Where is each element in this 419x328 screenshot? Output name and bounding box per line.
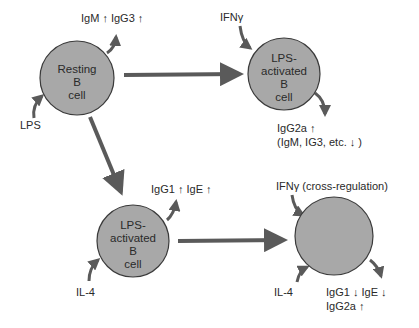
resting-cell-label-line2: B [73,76,81,88]
il4-input-label-bottom-left: IL-4 [76,286,95,298]
diagram-canvas: Resting B cell LPS- activated B cell LPS… [0,0,419,328]
arrow-il4-input-bottom-left [89,260,98,281]
top-cell-label-line2: activated [261,65,307,77]
b-cell-class-switch-diagram: Resting B cell LPS- activated B cell LPS… [0,0,419,328]
cross-regulated-output-line2: IgG2a ↑ [326,300,365,312]
ifng-input-label: IFNγ [220,11,244,23]
arrow-lps-input [34,96,42,118]
resting-b-cell: Resting B cell [40,41,114,115]
bottom-cell-label-line4: cell [124,258,141,270]
arrow-il4-input-bottom-right [297,267,307,282]
cross-regulated-b-cell [295,197,373,275]
cross-regulated-output-line1: IgG1 ↓ IgE ↓ [326,286,387,298]
top-cell-label-line1: LPS- [271,52,297,64]
lps-activated-b-cell-bottom: LPS- activated B cell [97,205,169,277]
arrow-resting-to-bottom-activated [90,117,121,192]
igg1-output-label: IgG1 ↑ IgE ↑ [151,183,212,195]
top-cell-label-line3: B [280,78,288,90]
il4-input-label-bottom-right: IL-4 [274,286,293,298]
bottom-cell-label-line2: activated [110,232,156,244]
resting-output-label: IgM ↑ IgG3 ↑ [81,12,143,24]
bottom-cell-label-line3: B [129,245,137,257]
bottom-cell-label-line1: LPS- [120,219,146,231]
arrow-ifng-cross-regulation-input [292,195,303,215]
arrow-ifng-input-top [240,26,250,48]
igg2a-output-label-line1: IgG2a ↑ [277,122,316,134]
arrow-resting-to-top-activated [124,74,240,75]
resting-cell-label-line3: cell [68,89,85,101]
lps-activated-b-cell-top: LPS- activated B cell [248,38,320,110]
igg2a-output-label-line2: (IgM, IG3, etc. ↓ ) [277,136,362,148]
lps-input-label: LPS [20,119,41,131]
arrow-igm-output [107,37,116,53]
arrow-cross-regulated-output [370,260,381,276]
arrow-igg1-output [167,202,176,220]
arrow-igg2a-output [315,93,325,114]
resting-cell-label-line1: Resting [58,63,97,75]
top-cell-label-line4: cell [275,91,292,103]
arrow-bottom-activated-to-cross-regulated [178,240,284,241]
ifng-cross-regulation-label: IFNγ (cross-regulation) [276,180,388,192]
